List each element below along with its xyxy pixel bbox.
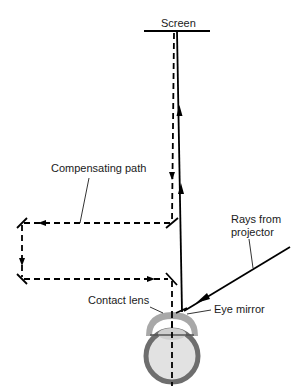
arrow-up-icon xyxy=(177,105,183,116)
arrow-down-icon xyxy=(169,172,175,180)
dashed-return-path xyxy=(172,33,174,222)
arrow-right-icon xyxy=(147,276,155,282)
projector-ray: Rays from projector xyxy=(184,213,290,311)
eye xyxy=(146,308,198,386)
arrow-down-icon xyxy=(19,258,25,266)
compensating-path-label: Compensating path xyxy=(51,162,146,174)
rays-label-line2: projector xyxy=(231,226,274,238)
contact-lens-label: Contact lens xyxy=(88,294,150,306)
optical-path-diagram: Screen Compensating path Rays from proje… xyxy=(0,0,308,387)
mirrors xyxy=(17,218,178,285)
leader-line xyxy=(187,310,211,314)
projection-ray xyxy=(177,31,185,312)
rays-label-line1: Rays from xyxy=(231,213,281,225)
eye-mirror-label: Eye mirror xyxy=(214,303,265,315)
leader-line xyxy=(150,307,163,313)
leader-line xyxy=(249,239,253,268)
arrow-left-icon xyxy=(38,220,46,226)
screen-label: Screen xyxy=(161,17,196,29)
arrow-icon xyxy=(196,293,210,303)
leader-line xyxy=(80,178,89,223)
screen: Screen xyxy=(144,17,210,31)
